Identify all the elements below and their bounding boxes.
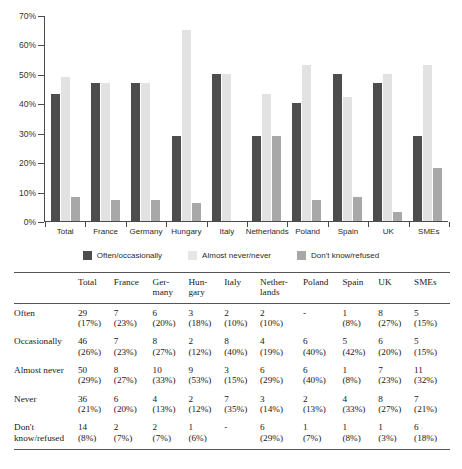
legend-swatch-icon [83,251,92,260]
table-cell-count: 5 [414,336,448,346]
x-axis-separator [85,222,86,227]
bar [212,74,221,221]
y-tick-label: 30% [19,129,36,139]
table-cell-percent: (53%) [188,375,222,385]
table-cell: 4(13%) [153,390,189,419]
table-cell: 1(8%) [342,418,378,449]
x-axis-separator [368,222,369,227]
table-row-label-line: know/refused [14,433,76,443]
table-cell: 4(33%) [342,390,378,419]
bar [343,97,352,221]
x-axis-separator [247,222,248,227]
table-cell-percent: (27%) [114,375,151,385]
bar [413,136,422,221]
table-cell-percent: (8%) [342,318,376,328]
table-cell: 14(8%) [78,418,114,449]
bar [91,83,100,221]
table-cell: 2(12%) [188,332,224,361]
table-column-header: Poland [303,273,343,304]
table-cell-percent: (20%) [153,318,187,328]
table-cell-count: 1 [342,422,376,432]
bar [111,200,120,221]
table-cell: 8(27%) [378,390,414,419]
table-cell-count: 3 [260,394,301,404]
table-cell-percent: (27%) [153,347,187,357]
table-row-label-line: Don't [14,422,76,432]
bar [333,74,342,221]
legend-swatch-icon [297,251,306,260]
y-tick-label: 50% [19,70,36,80]
table-row-label: Don'tknow/refused [14,418,78,449]
table-column-header-line: lands [260,288,301,298]
y-tick-mark [38,163,44,164]
table-cell: 1(8%) [342,303,378,332]
y-tick-mark [38,134,44,135]
table-cell-count: 7 [378,365,412,375]
table-cell: 8(27%) [378,303,414,332]
table-cell: 8(27%) [114,361,153,390]
table-row-label-line: Often [14,308,76,318]
bar [141,83,150,221]
y-tick-mark [38,104,44,105]
table-cell-percent: (26%) [78,347,112,357]
table-cell-count: 8 [224,336,258,346]
table-cell: 6(20%) [378,332,414,361]
table-cell-percent: (23%) [114,347,151,357]
x-axis-label: Hungary [166,222,206,240]
table-cell-percent: (33%) [342,404,376,414]
bar [423,65,432,221]
table-cell-percent: (20%) [378,347,412,357]
table-cell-percent: (42%) [342,347,376,357]
table-cell-percent: (7%) [303,433,341,443]
bar [373,83,382,221]
table-cell-count: 1 [342,365,376,375]
plot-area: 70%60%50%40%30%20%10%0% [44,16,448,222]
legend-label: Often/occasionally [97,251,162,260]
table-row: Don'tknow/refused14(8%)2(7%)2(7%)1(6%)- … [14,418,450,449]
table-cell-percent: (7%) [153,433,187,443]
table-cell-count: 1 [342,308,376,318]
table-cell-count: 14 [78,422,112,432]
x-axis-label: Poland [287,222,327,240]
table-cell-count: 2 [153,422,187,432]
table-cell-percent: (14%) [260,404,301,414]
table-cell: 1(6%) [188,418,224,449]
y-tick-mark [38,193,44,194]
bar-chart: 70%60%50%40%30%20%10%0% TotalFranceGerma… [0,0,462,240]
y-tick-label: 40% [19,99,36,109]
table-row-label: Occasionally [14,332,78,361]
bar-group [367,16,407,221]
table-cell-percent: (40%) [224,347,258,357]
table-cell-count: 1 [188,422,222,432]
bar [272,136,281,221]
y-tick-mark [38,45,44,46]
table-cell: 3(18%) [188,303,224,332]
chart-legend: Often/occasionallyAlmost never/neverDon'… [0,246,462,264]
table-cell-percent: (29%) [260,375,301,385]
table-cell: 6(18%) [414,418,450,449]
table-cell-count: 8 [153,336,187,346]
table-cell-count: 6 [153,308,187,318]
table-cell-percent: (29%) [78,375,112,385]
table-cell: - [303,303,343,332]
x-axis-label: SMEs [409,222,449,240]
data-table: TotalFranceGer-manyHun-garyItalyNether-l… [14,272,450,450]
y-tick-label: 20% [19,158,36,168]
table-cell: 2(7%) [153,418,189,449]
table-column-header: Nether-lands [260,273,303,304]
table-cell-percent: (10%) [224,318,258,328]
table-cell: 11(32%) [414,361,450,390]
table-header-row: TotalFranceGer-manyHun-garyItalyNether-l… [14,273,450,304]
table-cell-percent: (13%) [303,404,341,414]
table-cell: 46(26%) [78,332,114,361]
x-axis-separator [287,222,288,227]
table-cell-percent: (20%) [114,404,151,414]
table-cell-count: 6 [260,365,301,375]
table-cell-percent: (8%) [342,433,376,443]
table-cell-percent: (15%) [224,375,258,385]
table-cell-count: 6 [303,336,341,346]
table-cell-count: 2 [188,394,222,404]
legend-item: Don't know/refused [297,251,379,260]
table-column-header: Hun-gary [188,273,224,304]
bar-group [287,16,327,221]
